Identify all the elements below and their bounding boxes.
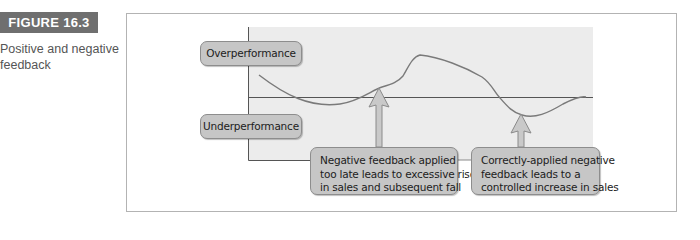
- callout-line: feedback leads to a: [481, 168, 593, 182]
- callout-line: in sales and subsequent fall: [320, 181, 451, 195]
- callout-line: controlled increase in sales: [481, 181, 593, 195]
- callout-correct-feedback: Correctly-applied negative feedback lead…: [471, 147, 600, 195]
- overperformance-label: Overperformance: [200, 41, 302, 66]
- underperformance-label: Underperformance: [200, 114, 302, 139]
- callout-line: Correctly-applied negative: [481, 154, 593, 168]
- callout-line: Negative feedback applied: [320, 154, 451, 168]
- callout-line: too late leads to excessive rise: [320, 168, 451, 182]
- callout-late-feedback: Negative feedback applied too late leads…: [310, 147, 458, 195]
